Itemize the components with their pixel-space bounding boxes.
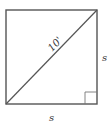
diagonal-label: 10'	[46, 35, 65, 54]
square-diagram: 10' s s	[0, 0, 112, 127]
side-right-label: s	[102, 52, 107, 63]
side-bottom-label: s	[49, 112, 54, 123]
right-angle-marker	[85, 92, 97, 104]
diagonal-line	[6, 10, 97, 104]
